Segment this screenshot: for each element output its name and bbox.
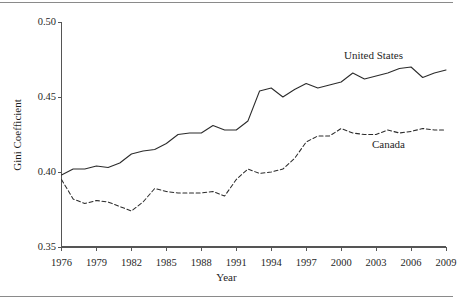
x-tick-label: 1979	[86, 258, 107, 269]
y-axis-title: Gini Coefficient	[12, 55, 23, 215]
x-tick-label: 2003	[366, 258, 387, 269]
x-tick-label: 1985	[156, 258, 177, 269]
x-axis-title: Year	[0, 272, 453, 283]
x-tick-label: 2009	[436, 258, 457, 269]
x-tick-label: 2006	[401, 258, 422, 269]
series-path-united-states	[62, 67, 447, 175]
y-tick-label: 0.35	[16, 242, 56, 253]
x-tick-label: 2000	[331, 258, 352, 269]
y-axis-ticks	[58, 22, 62, 247]
x-axis-ticks	[62, 247, 447, 251]
series-label-canada: Canada	[372, 139, 405, 150]
y-tick-label: 0.50	[16, 17, 56, 28]
x-tick-label: 1976	[51, 258, 72, 269]
x-tick-label: 1988	[191, 258, 212, 269]
x-tick-label: 1997	[296, 258, 317, 269]
x-tick-label: 1982	[121, 258, 142, 269]
x-tick-label: 1994	[261, 258, 282, 269]
series-label-united-states: United States	[344, 50, 403, 61]
x-tick-label: 1991	[226, 258, 247, 269]
